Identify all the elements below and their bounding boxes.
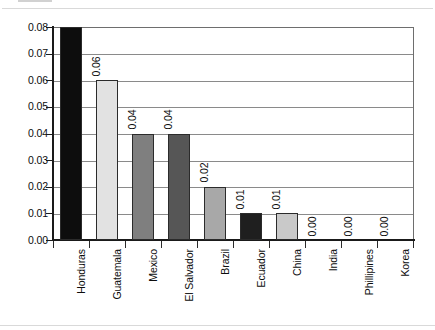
y-axis-tick-label: 0.07 [4,48,48,59]
bar-slot [53,27,89,240]
bar-series-plot-area: 0.060.040.040.020.010.010.000.000.00 [53,27,413,240]
x-axis-tick-mark [377,241,378,248]
bar[interactable] [168,134,190,241]
y-axis-tick-label: 0.03 [4,155,48,166]
x-axis-tick-mark [341,241,342,248]
y-axis-tick-label: 0.04 [4,128,48,139]
bar-value-label: 0.02 [199,163,210,183]
bar-value-label: 0.06 [91,56,102,76]
x-axis-tick-mark [305,241,306,248]
bar[interactable] [240,213,262,240]
x-axis-tick-mark [413,241,414,248]
y-axis-tick-labels: 0.080.070.060.050.040.030.020.010.00 [0,0,48,330]
bar-value-label: 0.00 [379,216,390,236]
x-axis-tick-mark [233,241,234,248]
bar[interactable] [96,80,118,240]
bar-slot: 0.02 [197,27,233,240]
x-axis-category-label: Brazil [220,249,231,275]
x-axis-category-label: Guatemala [112,249,123,299]
bar[interactable] [204,187,226,240]
x-axis-category-label: India [328,249,339,271]
y-axis-tick-label: 0.06 [4,75,48,86]
bar-value-label: 0.01 [271,189,282,209]
x-axis-category-label: El Salvador [184,249,195,302]
bar[interactable] [276,213,298,240]
bar-value-label: 0.00 [307,216,318,236]
bar[interactable] [60,27,82,240]
bar-slot: 0.01 [233,27,269,240]
y-axis-tick-label: 0.05 [4,101,48,112]
chart-page: 0.080.070.060.050.040.030.020.010.00 0.0… [0,0,435,330]
x-axis-category-label: Phillipines [364,249,375,295]
x-axis-tick-mark [161,241,162,248]
x-axis-tick-mark [269,241,270,248]
bar[interactable] [132,134,154,241]
scan-artifact-bottom-rule [0,325,435,326]
bar-value-label: 0.04 [127,109,138,129]
bar-slot: 0.00 [341,27,377,240]
y-axis-tick-label: 0.02 [4,181,48,192]
x-axis-tick-mark [125,241,126,248]
x-axis-tick-mark [197,241,198,248]
bar-value-label: 0.00 [343,216,354,236]
bar-slot: 0.00 [305,27,341,240]
y-axis-tick-label: 0.00 [4,235,48,246]
x-axis-category-labels: HondurasGuatemalaMexicoEl SalvadorBrazil… [53,249,413,329]
bar-value-label: 0.04 [163,109,174,129]
x-axis-category-label: Mexico [148,249,159,282]
x-axis-tick-mark [53,241,54,248]
bar-slot: 0.06 [89,27,125,240]
x-axis-category-label: Honduras [76,249,87,294]
scan-artifact-top-rule [2,8,433,9]
x-axis-category-label: China [292,249,303,276]
x-axis-tick-mark [89,241,90,248]
bar-slot: 0.00 [377,27,413,240]
bar-value-label: 0.01 [235,189,246,209]
x-axis-category-label: Ecuador [256,249,267,287]
x-axis-category-label: Korea [400,249,411,277]
y-axis-tick-label: 0.01 [4,208,48,219]
bar-slot: 0.01 [269,27,305,240]
bar-slot: 0.04 [161,27,197,240]
bar-slot: 0.04 [125,27,161,240]
y-axis-tick-label: 0.08 [4,22,48,33]
